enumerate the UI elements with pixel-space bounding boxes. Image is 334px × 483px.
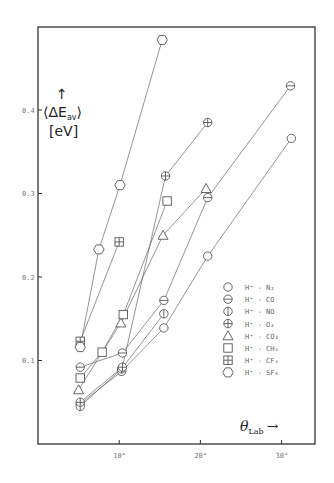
x-tick-label: 10° [113,452,126,460]
series-line [80,40,162,347]
circle-marker-icon [160,324,168,332]
legend-label: H⁺ - N₂ [245,284,275,292]
circle-vbar-icon [224,307,232,315]
circle-hbar-marker-icon [286,82,294,90]
square-vbar-icon [224,356,232,364]
series-markers [74,35,296,410]
legend-item: H⁺ - CO₂ [223,331,279,341]
circle-hbar-icon [224,295,232,303]
circle-marker-icon [287,134,295,142]
square-vbar-marker-icon [115,238,123,246]
legend-label: H⁺ - CH₄ [245,345,279,353]
y-axis-label: ↑ ⟨ΔEav⟩ [eV] [43,86,82,139]
circle-hbar-marker-icon [118,349,126,357]
x-tick-label: 20° [194,452,207,460]
legend-label: H⁺ - SF₆ [245,369,279,377]
y-tick-label: 0.3 [22,190,35,198]
y-label-unit: [eV] [49,123,78,139]
y-tick-label: 0.4 [22,107,35,115]
triangle-marker-icon [201,183,211,192]
hexagon-marker-icon [75,343,85,352]
legend-item: H⁺ - CO [224,295,275,304]
series-line [80,314,164,407]
x-tick-label: 30° [276,452,289,460]
square-marker-icon [76,374,84,382]
circle-vbar-marker-icon [160,310,168,318]
legend-item: H⁺ - O₂ [224,319,275,328]
circle-hbar-marker-icon [160,296,168,304]
circle-cross-marker-icon [76,398,84,406]
circle-cross-icon [224,319,232,327]
legend-label: H⁺ - CF₄ [245,357,279,365]
circle-hbar-marker-icon [76,363,84,371]
square-icon [224,344,232,352]
legend-item: H⁺ - SF₆ [223,368,279,378]
legend-label: H⁺ - CO [245,296,275,304]
triangle-marker-icon [116,318,126,327]
x-axis-label: θLab→ [240,418,279,436]
y-axis-ticks: 0.10.20.30.4 [22,107,42,366]
hexagon-icon [223,368,233,377]
legend-label: H⁺ - NO [245,308,275,316]
legend-item: H⁺ - CH₄ [224,344,279,353]
circle-icon [224,283,232,291]
x-label-theta: θLab→ [240,418,279,436]
series-line [80,242,119,341]
triangle-marker-icon [74,385,84,394]
y-tick-label: 0.1 [22,357,35,365]
square-marker-icon [98,348,106,356]
legend-label: H⁺ - CO₂ [245,333,279,341]
legend-label: H⁺ - O₂ [245,321,275,329]
y-tick-label: 0.2 [22,274,35,282]
energy-loss-chart: 0.10.20.30.4 10°20°30° ↑ ⟨ΔEav⟩ [eV] θLa… [0,0,334,483]
circle-marker-icon [204,252,212,260]
x-axis-ticks: 10°20°30° [113,440,288,460]
square-marker-icon [163,197,171,205]
circle-cross-marker-icon [161,172,169,180]
series-line [79,189,207,390]
square-marker-icon [119,310,127,318]
y-label-arrow: ↑ [56,86,68,102]
hexagon-marker-icon [157,35,167,44]
legend-item: H⁺ - N₂ [224,283,275,292]
legend: H⁺ - N₂H⁺ - COH⁺ - NOH⁺ - O₂H⁺ - CO₂H⁺ -… [223,283,279,378]
circle-cross-marker-icon [204,118,212,126]
y-label-quantity: ⟨ΔEav⟩ [43,104,82,122]
circle-hbar-marker-icon [204,193,212,201]
legend-item: H⁺ - NO [224,307,275,316]
triangle-icon [223,331,233,340]
hexagon-marker-icon [94,245,104,254]
circle-cross-marker-icon [118,363,126,371]
hexagon-marker-icon [115,181,125,190]
series-line [80,123,208,403]
legend-item: H⁺ - CF₄ [224,356,279,365]
